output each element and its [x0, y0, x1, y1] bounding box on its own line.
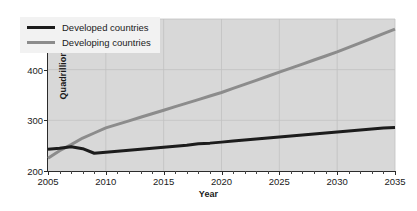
x-tick-label: 2010 — [95, 176, 116, 187]
x-tick-mark-minor — [129, 171, 130, 174]
x-tick-mark-minor — [71, 171, 72, 174]
x-tick-mark-minor — [291, 171, 292, 174]
line-chart-figure: 200300400500 200520102015202020252030203… — [0, 0, 417, 211]
x-tick-mark — [48, 171, 49, 175]
chart-legend: Developed countries Developing countries — [20, 17, 160, 53]
x-tick-label: 2020 — [211, 176, 232, 187]
x-tick-mark-minor — [245, 171, 246, 174]
y-tick-label: 400 — [27, 64, 43, 75]
x-tick-mark — [106, 171, 107, 175]
x-tick-label: 2015 — [153, 176, 174, 187]
x-tick-mark-minor — [349, 171, 350, 174]
x-tick-label: 2035 — [384, 176, 405, 187]
x-tick-mark-minor — [268, 171, 269, 174]
x-axis-label: Year — [0, 189, 417, 199]
legend-label-developed: Developed countries — [62, 22, 149, 33]
legend-item: Developed countries — [27, 21, 151, 34]
x-tick-mark-minor — [383, 171, 384, 174]
y-tick-label: 200 — [27, 166, 43, 177]
legend-label-developing: Developing countries — [62, 37, 151, 48]
legend-item: Developing countries — [27, 36, 151, 49]
x-tick-mark-minor — [210, 171, 211, 174]
x-tick-label: 2005 — [37, 176, 58, 187]
x-tick-mark-minor — [198, 171, 199, 174]
x-tick-mark-minor — [141, 171, 142, 174]
x-tick-mark — [395, 171, 396, 175]
x-tick-mark-minor — [372, 171, 373, 174]
x-tick-label: 2030 — [327, 176, 348, 187]
x-tick-mark — [279, 171, 280, 175]
y-tick-label: 300 — [27, 115, 43, 126]
x-tick-mark — [337, 171, 338, 175]
x-tick-mark — [222, 171, 223, 175]
x-tick-mark-minor — [60, 171, 61, 174]
y-tick-mark — [44, 70, 48, 71]
x-tick-mark-minor — [256, 171, 257, 174]
x-tick-mark — [164, 171, 165, 175]
x-tick-mark-minor — [187, 171, 188, 174]
x-tick-mark-minor — [152, 171, 153, 174]
x-tick-mark-minor — [314, 171, 315, 174]
x-tick-label: 2025 — [269, 176, 290, 187]
x-tick-mark-minor — [175, 171, 176, 174]
x-tick-mark-minor — [94, 171, 95, 174]
x-tick-mark-minor — [233, 171, 234, 174]
x-tick-mark-minor — [360, 171, 361, 174]
y-tick-mark — [44, 120, 48, 121]
x-tick-mark-minor — [302, 171, 303, 174]
x-tick-mark-minor — [117, 171, 118, 174]
x-tick-mark-minor — [326, 171, 327, 174]
x-tick-mark-minor — [83, 171, 84, 174]
legend-line-swatch-developed — [27, 26, 55, 29]
legend-line-swatch-developing — [27, 41, 55, 44]
